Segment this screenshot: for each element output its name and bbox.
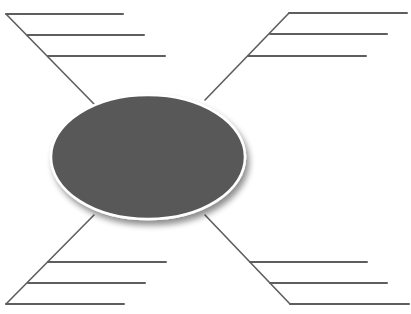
center-ellipse — [51, 95, 245, 219]
branch-leg-line — [6, 215, 94, 304]
branch-bottom-left — [6, 215, 166, 304]
branch-bottom-right — [205, 215, 409, 304]
spider-diagram — [0, 0, 411, 314]
center-node-group — [51, 95, 245, 219]
branch-leg-line — [205, 215, 290, 304]
branch-leg-line — [6, 14, 94, 104]
branch-top-left — [6, 14, 165, 104]
branch-top-right — [205, 13, 407, 100]
